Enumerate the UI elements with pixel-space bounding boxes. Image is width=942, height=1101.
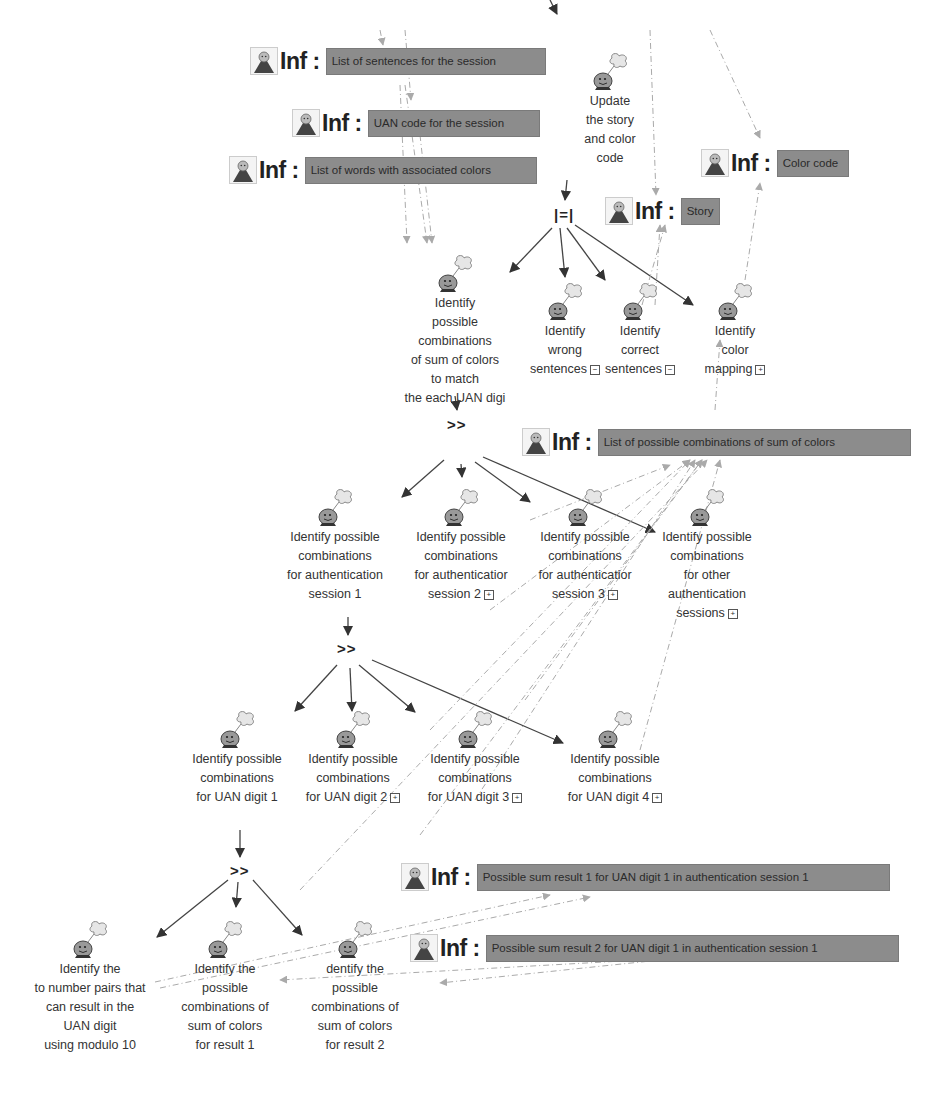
task-node-identify-comb[interactable]: Identify possible combinations of sum of… <box>385 254 525 408</box>
info-prefix: Inf : <box>552 429 592 456</box>
info-node-sum1[interactable]: Inf : Possible sum result 1 for UAN digi… <box>401 862 890 892</box>
abstract-task-icon <box>588 52 632 92</box>
operator-enable-3: >> <box>230 862 250 879</box>
info-node-combinations[interactable]: Inf : List of possible combinations of s… <box>522 427 911 457</box>
abstract-task-icon <box>593 710 637 750</box>
abstract-task-icon <box>333 920 377 960</box>
info-node-colorcode[interactable]: Inf : Color code <box>701 148 849 178</box>
info-prefix: Inf : <box>280 48 320 75</box>
task-label: Identify possible combinations for UAN d… <box>560 750 670 807</box>
user-avatar-icon <box>522 428 550 456</box>
expand-icon[interactable]: + <box>608 590 618 600</box>
task-label: Identify wrong sentences− <box>530 322 600 379</box>
info-label: Possible sum result 1 for UAN digit 1 in… <box>477 864 890 891</box>
task-label: Identify correct sentences− <box>605 322 675 379</box>
task-label: Identify possible combinations for authe… <box>406 528 516 604</box>
abstract-task-icon <box>203 920 247 960</box>
user-avatar-icon <box>250 47 278 75</box>
abstract-task-icon <box>313 488 357 528</box>
task-label: Identify the possible combinations of su… <box>170 960 280 1055</box>
task-label: Identify possible combinations for UAN d… <box>182 750 292 807</box>
operator-enable-1: >> <box>447 416 467 433</box>
task-label: Update the story and color code <box>575 92 645 168</box>
expand-icon[interactable]: + <box>512 793 522 803</box>
expand-icon[interactable]: + <box>755 365 765 375</box>
info-prefix: Inf : <box>322 110 362 137</box>
abstract-task-icon <box>331 710 375 750</box>
info-prefix: Inf : <box>440 935 480 962</box>
task-node-digit1[interactable]: Identify possible combinations for UAN d… <box>182 710 292 807</box>
abstract-task-icon <box>433 254 477 294</box>
info-prefix: Inf : <box>635 198 675 225</box>
info-node-story[interactable]: Inf : Story <box>605 196 720 226</box>
info-label: List of words with associated colors <box>305 157 537 184</box>
task-node-session3[interactable]: Identify possible combinations for authe… <box>530 488 640 604</box>
abstract-task-icon <box>563 488 607 528</box>
info-node-sentences[interactable]: Inf : List of sentences for the session <box>250 46 546 76</box>
task-label: Identify possible combinations for other… <box>652 528 762 623</box>
info-node-words[interactable]: Inf : List of words with associated colo… <box>229 155 537 185</box>
task-node-digit3[interactable]: Identify possible combinations for UAN d… <box>420 710 530 807</box>
operator-interleave: |=| <box>554 206 574 223</box>
task-label: Identify the to number pairs that can re… <box>25 960 155 1055</box>
task-node-result1[interactable]: Identify the possible combinations of su… <box>170 920 280 1055</box>
task-node-result2[interactable]: dentify the possible combinations of sum… <box>300 920 410 1055</box>
task-label: Identify color mapping+ <box>700 322 770 379</box>
task-node-colormap[interactable]: Identify color mapping+ <box>700 282 770 379</box>
collapse-icon[interactable]: − <box>590 365 600 375</box>
info-label: List of sentences for the session <box>326 48 546 75</box>
task-node-digit4[interactable]: Identify possible combinations for UAN d… <box>560 710 670 807</box>
expand-icon[interactable]: + <box>652 793 662 803</box>
info-label: Story <box>681 198 720 225</box>
task-label: Identify possible combinations for UAN d… <box>420 750 530 807</box>
info-prefix: Inf : <box>731 150 771 177</box>
task-label: Identify possible combinations for UAN d… <box>298 750 408 807</box>
task-node-pairs[interactable]: Identify the to number pairs that can re… <box>25 920 155 1055</box>
collapse-icon[interactable]: − <box>665 365 675 375</box>
task-node-session1[interactable]: Identify possible combinations for authe… <box>280 488 390 604</box>
info-prefix: Inf : <box>259 157 299 184</box>
task-node-wrong[interactable]: Identify wrong sentences− <box>530 282 600 379</box>
task-label: Identify possible combinations of sum of… <box>385 294 525 408</box>
info-label: Color code <box>777 150 849 177</box>
info-prefix: Inf : <box>431 864 471 891</box>
info-label: UAN code for the session <box>368 110 540 137</box>
user-avatar-icon <box>701 149 729 177</box>
info-label: Possible sum result 2 for UAN digit 1 in… <box>486 935 899 962</box>
expand-icon[interactable]: + <box>484 590 494 600</box>
abstract-task-icon <box>215 710 259 750</box>
task-node-session2[interactable]: Identify possible combinations for authe… <box>406 488 516 604</box>
info-node-sum2[interactable]: Inf : Possible sum result 2 for UAN digi… <box>410 933 899 963</box>
task-node-update[interactable]: Update the story and color code <box>575 52 645 168</box>
user-avatar-icon <box>605 197 633 225</box>
operator-enable-2: >> <box>337 640 357 657</box>
abstract-task-icon <box>618 282 662 322</box>
task-node-correct[interactable]: Identify correct sentences− <box>605 282 675 379</box>
expand-icon[interactable]: + <box>728 609 738 619</box>
user-avatar-icon <box>401 863 429 891</box>
abstract-task-icon <box>68 920 112 960</box>
task-label: dentify the possible combinations of sum… <box>300 960 410 1055</box>
user-avatar-icon <box>292 109 320 137</box>
task-node-session-other[interactable]: Identify possible combinations for other… <box>652 488 762 623</box>
abstract-task-icon <box>439 488 483 528</box>
task-node-digit2[interactable]: Identify possible combinations for UAN d… <box>298 710 408 807</box>
abstract-task-icon <box>685 488 729 528</box>
abstract-task-icon <box>713 282 757 322</box>
expand-icon[interactable]: + <box>390 793 400 803</box>
abstract-task-icon <box>453 710 497 750</box>
info-label: List of possible combinations of sum of … <box>598 429 911 456</box>
user-avatar-icon <box>410 934 438 962</box>
task-label: Identify possible combinations for authe… <box>280 528 390 604</box>
info-node-uan[interactable]: Inf : UAN code for the session <box>292 108 540 138</box>
abstract-task-icon <box>543 282 587 322</box>
user-avatar-icon <box>229 156 257 184</box>
task-label: Identify possible combinations for authe… <box>530 528 640 604</box>
